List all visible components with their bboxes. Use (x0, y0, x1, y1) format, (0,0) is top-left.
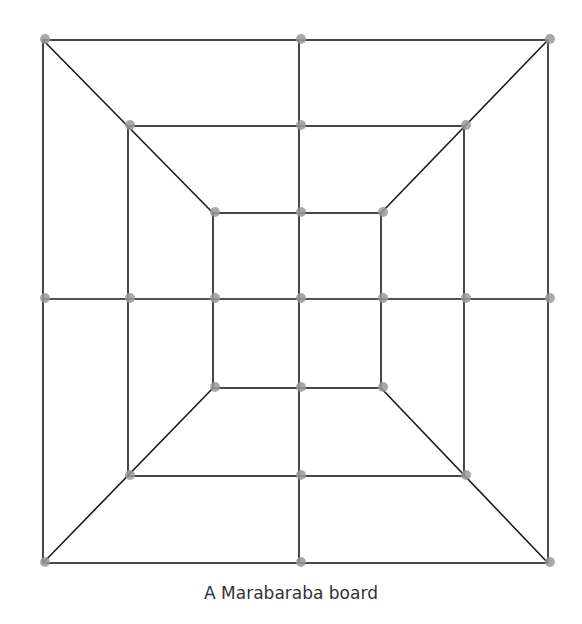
board-point (461, 293, 471, 303)
board-point (40, 557, 50, 567)
marabaraba-board (0, 0, 582, 624)
board-point (296, 34, 306, 44)
board-point (210, 293, 220, 303)
board-point (296, 557, 306, 567)
board-point (40, 293, 50, 303)
board-point (40, 34, 50, 44)
board-point (296, 470, 306, 480)
board-caption: A Marabaraba board (0, 583, 582, 603)
board-point (378, 207, 388, 217)
board-lines (43, 40, 548, 563)
board-point (125, 470, 135, 480)
board-point (210, 207, 220, 217)
board-point (296, 293, 306, 303)
board-point (125, 120, 135, 130)
board-point (210, 382, 220, 392)
board-point (296, 207, 306, 217)
board-point (378, 293, 388, 303)
board-point (545, 34, 555, 44)
board-point (545, 293, 555, 303)
board-point (296, 382, 306, 392)
board-point (545, 557, 555, 567)
board-point (461, 120, 471, 130)
board-point (296, 120, 306, 130)
board-point (461, 470, 471, 480)
board-point (378, 382, 388, 392)
board-point (125, 293, 135, 303)
